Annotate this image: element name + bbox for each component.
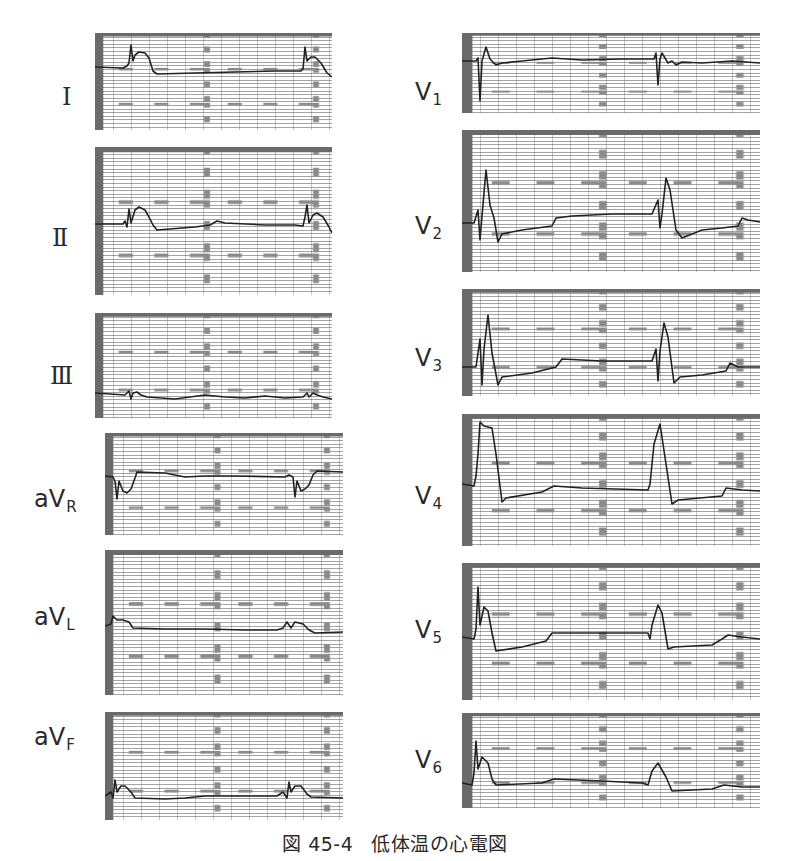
ecg-trace-V1 [462,33,760,113]
lead-label-V5: V5 [415,618,442,642]
ecg-strip-aVR [105,433,343,535]
lead-label-V1: V1 [415,80,442,104]
ecg-trace-V3 [462,289,760,396]
lead-label-III: Ⅲ [50,364,73,388]
ecg-trace-V4 [462,414,760,546]
lead-label-I: Ⅰ [62,85,71,109]
ecg-trace-II [95,147,332,295]
ecg-strip-III [95,313,332,418]
ecg-trace-V6 [462,713,760,808]
lead-label-V4: V4 [415,484,442,508]
lead-label-V2: V2 [415,214,442,238]
ecg-strip-V4 [462,414,760,546]
ecg-trace-aVR [105,433,343,535]
lead-label-V6: V6 [415,748,442,772]
ecg-strip-V5 [462,563,760,700]
lead-label-aVL: aVL [34,605,74,629]
ecg-trace-aVF [105,712,343,820]
ecg-strip-V2 [462,130,760,272]
ecg-strip-II [95,147,332,295]
ecg-strip-aVL [105,550,343,695]
lead-label-II: Ⅱ [52,226,68,250]
figure-number: 図 45-4 [282,833,353,855]
lead-label-aVF: aVF [34,725,75,749]
figure-caption: 図 45-4低体温の心電図 [0,829,790,856]
lead-label-aVR: aVR [34,487,77,511]
ecg-strip-V1 [462,33,760,113]
ecg-strip-V6 [462,713,760,808]
ecg-trace-V5 [462,563,760,700]
ecg-trace-V2 [462,130,760,272]
ecg-strip-I [95,33,332,130]
ecg-strip-aVF [105,712,343,820]
ecg-strip-V3 [462,289,760,396]
ecg-trace-aVL [105,550,343,695]
figure-title: 低体温の心電図 [371,833,508,855]
ecg-trace-I [95,33,332,130]
lead-label-V3: V3 [415,346,442,370]
ecg-trace-III [95,313,332,418]
